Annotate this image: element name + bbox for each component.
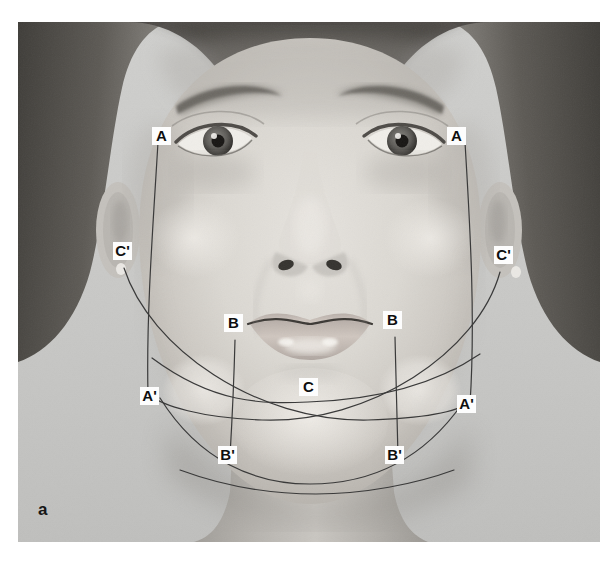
photograph-plate: A A C' C' B B A' C A' B' B' bbox=[18, 22, 600, 542]
caption-partial-text bbox=[60, 552, 560, 562]
marker-Bprime-left: B' bbox=[218, 446, 237, 464]
face-photograph bbox=[18, 22, 600, 542]
panel-letter: a bbox=[38, 500, 47, 520]
marker-B-right: B bbox=[383, 311, 402, 329]
marker-A-left: A bbox=[152, 127, 171, 145]
figure-page: A A C' C' B B A' C A' B' B' a bbox=[0, 0, 616, 562]
marker-Cprime-right: C' bbox=[494, 246, 513, 264]
marker-Bprime-right: B' bbox=[385, 446, 404, 464]
marker-A-right: A bbox=[447, 127, 466, 145]
marker-B-left: B bbox=[224, 314, 243, 332]
marker-Aprime-right: A' bbox=[457, 395, 476, 413]
marker-Aprime-left: A' bbox=[140, 387, 159, 405]
marker-C-mid: C bbox=[299, 378, 318, 396]
marker-Cprime-left: C' bbox=[113, 242, 132, 260]
